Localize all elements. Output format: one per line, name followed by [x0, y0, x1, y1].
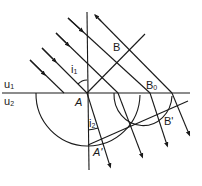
label-u1: u1 [4, 79, 14, 90]
label-B: B [113, 42, 120, 53]
refraction-diagram [0, 0, 202, 186]
angle-arc-i1 [78, 80, 87, 84]
incident-ray-1-arrow [30, 60, 44, 74]
refracted-ray-4 [172, 93, 189, 134]
incident-ray-5-arrowhead [96, 16, 101, 21]
incident-ray-2-arrow [42, 48, 55, 61]
label-A: A [75, 97, 82, 108]
refracted-ray-2 [118, 93, 142, 156]
label-B0: B0 [146, 80, 157, 91]
incident-ray-3-arrow [56, 33, 68, 45]
label-i2: i2 [89, 118, 95, 129]
label-B-prime: B' [164, 116, 173, 127]
label-A-prime: A' [93, 147, 102, 158]
incident-ray-4-arrow [68, 18, 82, 31]
label-i1: i1 [71, 64, 77, 75]
label-u2: u2 [4, 96, 14, 107]
